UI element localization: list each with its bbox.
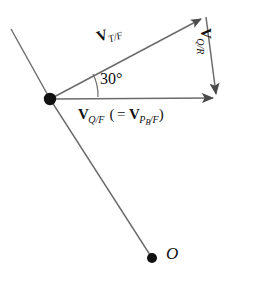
vector-subscript-v-qr: Q/R	[195, 38, 206, 54]
label-vector-v-qf: VQ/F(=VPB/F)	[78, 107, 163, 122]
origin-dot-icon	[147, 253, 157, 263]
vector-v-tf-shaft	[52, 19, 201, 98]
equals-sign: =	[117, 106, 125, 122]
close-paren: )	[159, 106, 164, 122]
vector-subscript-v-pbf-tail: /F	[150, 114, 159, 125]
angle-arc-30	[93, 74, 98, 97]
label-origin-point-o: O	[166, 245, 178, 262]
diagram-vector-graphics	[0, 0, 257, 282]
open-paren: (	[109, 106, 114, 122]
label-vector-v-qr: VQ/R	[198, 28, 213, 54]
vector-subscript-v-qf: Q/F	[88, 114, 104, 125]
vector-symbol-v-pbf: V	[129, 106, 139, 122]
label-angle-30-degrees: 30°	[100, 71, 122, 87]
vector-symbol-v-qr: V	[198, 28, 214, 38]
vector-diagram-canvas: VT/F VQ/R VQ/F(=VPB/F) 30° O	[0, 0, 257, 282]
vertex-dot-icon	[44, 93, 56, 105]
vector-symbol-v-qf: V	[78, 106, 88, 122]
vector-v-qf-shaft	[52, 98, 213, 99]
reference-line-upper-left	[11, 29, 50, 99]
